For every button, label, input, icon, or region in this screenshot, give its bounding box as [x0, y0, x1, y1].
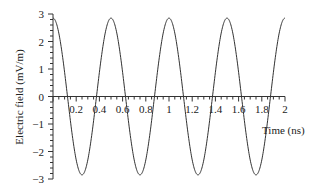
x-axis-label: Time (ns) [262, 124, 305, 137]
chart: 3210−1−2−3 0.20.40.60.811.21.41.61.82 Ti… [0, 0, 310, 192]
y-tick-label: −1 [32, 118, 44, 130]
x-tick-label: 0.8 [139, 103, 153, 115]
y-axis-label: Electric field (mV/m) [13, 49, 26, 145]
x-tick-label: 1.8 [255, 103, 269, 115]
y-axis: 3210−1−2−3 [32, 8, 53, 185]
y-tick-label: −2 [32, 146, 44, 158]
x-tick-label: 2 [282, 103, 288, 115]
y-tick-label: −3 [32, 173, 44, 185]
y-tick-label: 2 [39, 36, 45, 48]
y-tick-label: 3 [39, 8, 45, 20]
x-tick-label: 0.2 [69, 103, 83, 115]
y-tick-label: 0 [39, 91, 45, 103]
x-tick-label: 1.2 [185, 103, 199, 115]
x-tick-label: 1 [166, 103, 172, 115]
y-tick-label: 1 [39, 63, 45, 75]
x-axis: 0.20.40.60.811.21.41.61.82 [53, 97, 288, 115]
